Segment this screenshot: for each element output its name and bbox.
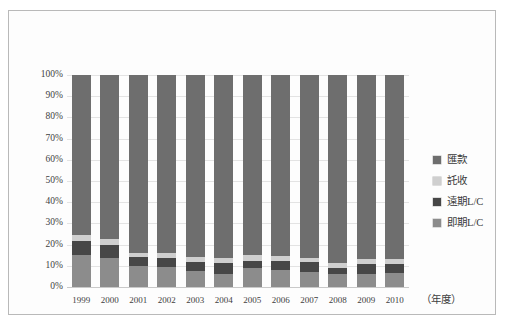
bar-segment bbox=[271, 270, 290, 287]
legend-swatch-icon bbox=[433, 177, 441, 185]
stacked-bar[interactable] bbox=[186, 75, 205, 287]
y-axis-tick-label: 20% bbox=[46, 240, 63, 250]
bar-segment bbox=[100, 258, 119, 287]
bar-segment bbox=[300, 272, 319, 287]
stacked-bar[interactable] bbox=[328, 75, 347, 287]
bar-segment bbox=[100, 245, 119, 259]
plot-area bbox=[67, 75, 409, 287]
bar-segment bbox=[243, 261, 262, 268]
x-axis-tick-label: 2003 bbox=[181, 292, 210, 308]
x-axis-tick-label: 2000 bbox=[96, 292, 125, 308]
chart-legend: 匯款託收遠期L/C即期L/C bbox=[433, 149, 505, 233]
x-axis-tick-label: 2009 bbox=[352, 292, 381, 308]
stacked-bar[interactable] bbox=[129, 75, 148, 287]
bar-slot bbox=[352, 75, 381, 287]
x-axis-tick-label: 2008 bbox=[324, 292, 353, 308]
bar-slot bbox=[124, 75, 153, 287]
stacked-bar[interactable] bbox=[157, 75, 176, 287]
bar-segment bbox=[328, 274, 347, 287]
x-axis-tick-label: 2005 bbox=[238, 292, 267, 308]
bar-segment bbox=[72, 75, 91, 235]
bar-segment bbox=[328, 75, 347, 263]
chart-frame: 100%90%80%70%60%50%40%30%20%10%0% 199920… bbox=[8, 10, 496, 315]
bar-segment bbox=[243, 75, 262, 255]
bar-slot bbox=[153, 75, 182, 287]
x-axis-tick-label: 2004 bbox=[210, 292, 239, 308]
bar-segment bbox=[300, 262, 319, 273]
stacked-bar[interactable] bbox=[300, 75, 319, 287]
x-axis-title: （年度） bbox=[421, 292, 461, 308]
y-axis-tick-label: 50% bbox=[46, 176, 63, 186]
gridline-0 bbox=[67, 287, 409, 288]
legend-item[interactable]: 匯款 bbox=[433, 149, 505, 170]
bar-segment bbox=[357, 264, 376, 275]
x-axis-labels: 1999200020012002200320042005200620072008… bbox=[67, 292, 409, 308]
legend-item[interactable]: 託收 bbox=[433, 170, 505, 191]
bar-segment bbox=[186, 75, 205, 257]
legend-swatch-icon bbox=[433, 198, 441, 206]
bar-segment bbox=[357, 274, 376, 287]
bar-segment bbox=[300, 75, 319, 258]
legend-item-label: 託收 bbox=[447, 175, 467, 186]
bar-slot bbox=[210, 75, 239, 287]
bar-segment bbox=[385, 264, 404, 274]
bar-segment bbox=[214, 263, 233, 275]
bar-segment bbox=[214, 75, 233, 258]
bar-slot bbox=[267, 75, 296, 287]
stacked-bar[interactable] bbox=[357, 75, 376, 287]
bar-slot bbox=[295, 75, 324, 287]
bar-slot bbox=[181, 75, 210, 287]
bar-slot bbox=[67, 75, 96, 287]
bar-segment bbox=[214, 274, 233, 287]
legend-item-label: 即期L/C bbox=[447, 217, 483, 228]
bar-slot bbox=[381, 75, 410, 287]
bar-slot bbox=[324, 75, 353, 287]
bar-segment bbox=[186, 271, 205, 287]
bar-segment bbox=[157, 258, 176, 266]
bar-segment bbox=[385, 75, 404, 259]
stacked-bar[interactable] bbox=[385, 75, 404, 287]
stacked-bar[interactable] bbox=[100, 75, 119, 287]
legend-item-label: 遠期L/C bbox=[447, 196, 483, 207]
bar-segment bbox=[129, 266, 148, 287]
bar-segment bbox=[385, 273, 404, 287]
bar-slot bbox=[238, 75, 267, 287]
bar-segment bbox=[157, 267, 176, 287]
x-axis-tick-label: 2002 bbox=[153, 292, 182, 308]
stacked-bar[interactable] bbox=[72, 75, 91, 287]
y-axis-tick-label: 90% bbox=[46, 91, 63, 101]
bar-segment bbox=[271, 75, 290, 256]
bar-segment bbox=[157, 75, 176, 253]
legend-swatch-icon bbox=[433, 219, 441, 227]
bar-segment bbox=[129, 257, 148, 265]
legend-item[interactable]: 遠期L/C bbox=[433, 191, 505, 212]
bar-series-container bbox=[67, 75, 409, 287]
bar-segment bbox=[129, 75, 148, 253]
stacked-bar[interactable] bbox=[214, 75, 233, 287]
x-axis-tick-label: 2001 bbox=[124, 292, 153, 308]
bar-segment bbox=[72, 255, 91, 287]
x-axis-tick-label: 2010 bbox=[381, 292, 410, 308]
x-axis-tick-label: 2007 bbox=[295, 292, 324, 308]
y-axis-tick-label: 60% bbox=[46, 155, 63, 165]
y-axis-tick-label: 70% bbox=[46, 134, 63, 144]
stacked-bar[interactable] bbox=[243, 75, 262, 287]
bar-segment bbox=[72, 241, 91, 255]
y-axis-tick-label: 0% bbox=[50, 282, 63, 292]
bar-segment bbox=[243, 268, 262, 287]
y-axis-tick-label: 80% bbox=[46, 112, 63, 122]
legend-swatch-icon bbox=[433, 156, 441, 164]
legend-item[interactable]: 即期L/C bbox=[433, 212, 505, 233]
y-axis-tick-label: 30% bbox=[46, 218, 63, 228]
bar-segment bbox=[357, 75, 376, 259]
bar-segment bbox=[186, 262, 205, 272]
bar-segment bbox=[100, 75, 119, 239]
x-axis-tick-label: 2006 bbox=[267, 292, 296, 308]
y-axis-tick-label: 10% bbox=[46, 261, 63, 271]
bar-segment bbox=[271, 261, 290, 271]
y-axis-tick-label: 100% bbox=[41, 70, 63, 80]
stacked-bar[interactable] bbox=[271, 75, 290, 287]
y-axis-labels: 100%90%80%70%60%50%40%30%20%10%0% bbox=[9, 75, 63, 287]
y-axis-tick-label: 40% bbox=[46, 197, 63, 207]
legend-item-label: 匯款 bbox=[447, 154, 467, 165]
